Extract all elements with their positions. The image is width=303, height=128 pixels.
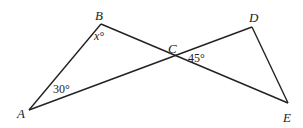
point-label-a: A <box>16 106 25 121</box>
point-label-b: B <box>95 8 103 23</box>
segment-ad <box>29 27 252 110</box>
point-label-e: E <box>282 110 291 125</box>
angle-label-c: 45° <box>188 51 205 65</box>
segment-de <box>252 27 288 103</box>
geometry-diagram: A B C D E x° 30° 45° <box>0 0 303 128</box>
angle-label-a: 30° <box>53 82 70 96</box>
point-label-d: D <box>248 10 259 25</box>
angle-label-b: x° <box>93 29 104 43</box>
point-label-c: C <box>168 41 177 56</box>
